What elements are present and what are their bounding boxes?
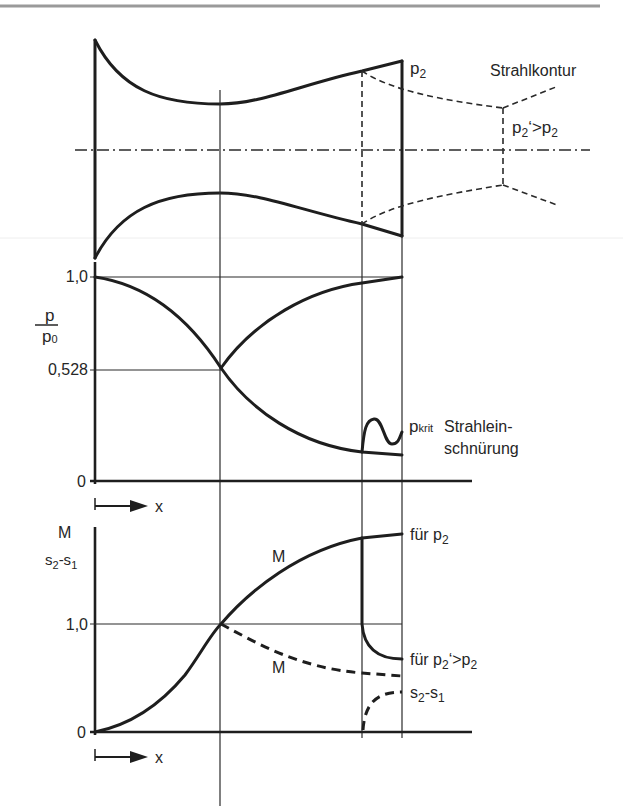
lower-wall [95, 193, 402, 258]
ylabel-p: p [45, 306, 54, 325]
label-backpressure: p2‘>p2 [512, 118, 558, 140]
label-pkrit: pkrit [409, 417, 433, 436]
curve-subsonic [221, 277, 402, 368]
upper-wall [95, 40, 402, 104]
curve-entropy [363, 692, 402, 730]
tick-0: 0 [77, 473, 86, 490]
curve-supersonic [95, 277, 402, 455]
label-fuer-p2: für p2 [410, 526, 449, 547]
label-strahleinschnuerung-1: Strahlein- [444, 418, 512, 435]
xlabel-mach: x [155, 749, 163, 766]
tick-mach-1.0: 1,0 [66, 616, 88, 633]
tick-mach-0: 0 [77, 724, 86, 741]
label-strahleinschnuerung-2: schnürung [444, 440, 519, 457]
curve-pkrit-wave [362, 419, 402, 452]
jet-contour-lower [362, 185, 503, 224]
jet-expansion-upper [503, 87, 556, 108]
label-p2: p2 [410, 59, 426, 81]
tick-1.0: 1,0 [66, 268, 88, 285]
pressure-panel [90, 262, 472, 512]
ylabel-p0: p0 [42, 327, 58, 346]
jet-contour-upper [362, 71, 503, 108]
jet-expansion-lower [503, 185, 557, 205]
x-arrow-head-icon-2 [130, 751, 148, 763]
ylabel-s2-s1: s2-s1 [45, 551, 77, 571]
label-M-upper: M [272, 548, 285, 565]
curve-M-shock [362, 538, 402, 659]
label-entropy: s2-s1 [410, 684, 445, 705]
label-M-lower: M [272, 659, 285, 676]
ylabel-M: M [58, 524, 71, 541]
tick-0.528: 0,528 [48, 361, 88, 378]
laval-nozzle-diagram: p2 Strahlkontur p2‘>p2 1,0 0,528 0 p p0 … [0, 0, 623, 806]
label-fuer-p2-backpressure: für p2‘>p2 [410, 651, 478, 672]
nozzle-contour [75, 40, 590, 806]
curve-M-p2 [95, 534, 402, 732]
xlabel-pressure: x [155, 498, 163, 515]
x-arrow-head-icon [130, 500, 148, 512]
label-strahlkontur: Strahlkontur [490, 62, 577, 79]
